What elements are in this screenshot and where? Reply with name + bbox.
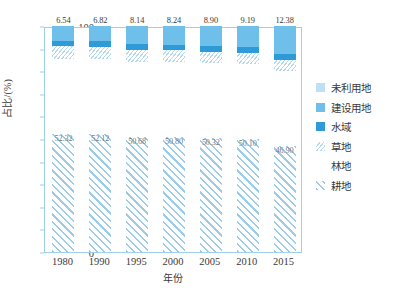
bar-value-label-cropland: 50.68 [128,137,146,146]
x-axis-tick-label: 1980 [52,256,73,267]
stacked-bar-chart: 占比/(%) 0102030405060708090100 52.326.545… [0,0,400,295]
bar-segment-cropland [52,134,74,252]
bar-column[interactable]: 50.109.19 [237,26,259,252]
bar-column[interactable]: 50.808.24 [163,26,185,252]
bar-segment-built-land [163,26,185,45]
bar-segment-built-land [200,26,222,46]
bar-value-label-built-land: 8.14 [130,16,144,25]
legend-item-label: 耕地 [331,178,351,193]
legend-swatch-unused-land [316,83,325,92]
x-axis-tick-label: 2005 [199,256,220,267]
bar-segment-grassland [274,60,296,72]
bar-segment-forest [200,63,222,138]
bar-value-label-built-land: 12.38 [275,16,293,25]
bar-segment-cropland [89,134,111,252]
bar-value-label-built-land: 9.19 [241,16,255,25]
legend-swatch-forest [316,161,325,170]
bar-segment-water [274,54,296,60]
bar-segment-grassland [89,47,111,59]
plot-area: 52.326.5452.126.8250.688.1450.808.2450.3… [44,27,302,253]
bar-value-label-built-land: 6.82 [93,16,107,25]
x-axis-tick-label: 1990 [89,256,110,267]
bar-segment-built-land [89,26,111,41]
legend-item-label: 建设用地 [331,100,371,115]
bar-segment-grassland [126,50,148,62]
legend-item[interactable]: 建设用地 [316,98,396,118]
bar-value-label-built-land: 8.24 [167,16,181,25]
bar-segment-water [200,46,222,51]
bar-segment-water [52,41,74,46]
bar-segment-cropland [237,139,259,252]
bar-column[interactable]: 50.328.90 [200,26,222,252]
legend-swatch-built-land [316,103,325,112]
legend-item-label: 草地 [331,139,351,154]
bar-value-label-cropland: 50.32 [202,138,220,147]
bar-segment-water [237,47,259,53]
bar-segment-forest [274,71,296,146]
legend-item[interactable]: 林地 [316,156,396,176]
x-axis-tick-label: 2010 [236,256,257,267]
bar-segment-grassland [163,50,185,62]
bar-segment-grassland [52,46,74,59]
bar-segment-forest [163,62,185,137]
legend-item-label: 未利用地 [331,80,371,95]
bar-segment-water [89,41,111,46]
x-axis-tick-label: 1995 [126,256,147,267]
bar-segment-cropland [200,138,222,252]
bar-column[interactable]: 52.326.54 [52,26,74,252]
legend-item[interactable]: 耕地 [316,176,396,196]
bar-value-label-built-land: 8.90 [204,16,218,25]
bar-segment-water [163,45,185,51]
legend-swatch-cropland [316,181,325,190]
x-axis-tick-label: 2015 [273,256,294,267]
legend-swatch-grassland [316,142,325,151]
y-axis-title: 占比/(%) [0,0,14,118]
bar-segment-grassland [237,53,259,65]
bar-segment-water [126,44,148,49]
x-axis-tick-label: 2000 [163,256,184,267]
legend-item-label: 水域 [331,119,351,134]
bar-value-label-cropland: 52.32 [54,134,72,143]
bar-segment-built-land [237,26,259,47]
bar-segment-cropland [274,146,296,252]
legend-item[interactable]: 草地 [316,137,396,157]
bar-segment-cropland [163,137,185,252]
legend-swatch-water [316,122,325,131]
bar-value-label-cropland: 50.10 [239,139,257,148]
bar-segment-forest [126,62,148,138]
legend-item[interactable]: 未利用地 [316,78,396,98]
bar-value-label-built-land: 6.54 [56,16,70,25]
bar-segment-cropland [126,137,148,252]
bar-column[interactable]: 52.126.82 [89,26,111,252]
bar-value-label-cropland: 52.12 [91,134,109,143]
bar-segment-built-land [274,26,296,54]
legend-item-label: 林地 [331,158,351,173]
bar-column[interactable]: 46.9012.38 [274,26,296,252]
bar-value-label-cropland: 46.90 [276,146,294,155]
x-axis-title: 年份 [163,270,183,285]
bar-segment-forest [237,64,259,138]
bar-segment-forest [52,59,74,134]
bar-segment-forest [89,59,111,134]
chart-legend: 未利用地建设用地水域草地林地耕地 [316,78,396,195]
bar-value-label-cropland: 50.80 [165,137,183,146]
legend-item[interactable]: 水域 [316,117,396,137]
bar-column[interactable]: 50.688.14 [126,26,148,252]
bar-segment-grassland [200,52,222,64]
bar-segment-built-land [126,26,148,44]
bar-segment-built-land [52,26,74,41]
